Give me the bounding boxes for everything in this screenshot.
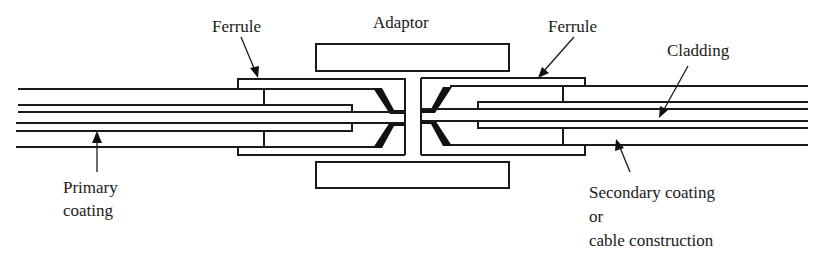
- adaptor: [316, 44, 509, 188]
- right-primary-top: [478, 102, 808, 109]
- right-ferrule: [421, 78, 585, 155]
- right-sleeve-bottom: [421, 120, 452, 146]
- left-sleeve-bottom: [373, 122, 405, 148]
- label-primary-line2: coating: [63, 201, 114, 220]
- label-adaptor: Adaptor: [373, 13, 429, 32]
- adaptor-bottom-block: [316, 162, 509, 188]
- label-secondary-line3: cable construction: [589, 231, 714, 250]
- cladding-leader: [662, 66, 688, 113]
- fibre-connector-diagram: Ferrule Adaptor Ferrule Cladding Primary…: [0, 0, 820, 260]
- label-secondary-line1: Secondary coating: [589, 183, 716, 202]
- left-sleeve-top: [373, 88, 405, 114]
- left-fibre: [16, 89, 405, 147]
- arrowhead-icon: [659, 106, 668, 118]
- ferrule-right-leader: [543, 37, 574, 72]
- left-primary-top: [18, 105, 352, 112]
- label-cladding: Cladding: [667, 41, 730, 60]
- label-secondary-line2: or: [589, 207, 604, 226]
- label-ferrule-left: Ferrule: [212, 17, 261, 36]
- arrowhead-icon: [92, 131, 102, 143]
- label-ferrule-right: Ferrule: [548, 17, 597, 36]
- left-ferrule: [238, 79, 405, 155]
- arrowhead-icon: [538, 67, 549, 78]
- right-primary-bottom: [478, 121, 808, 128]
- right-fibre: [421, 86, 808, 145]
- left-primary-bottom: [16, 123, 352, 131]
- arrowhead-icon: [250, 66, 259, 78]
- label-primary-line1: Primary: [63, 178, 118, 197]
- adaptor-top-block: [316, 44, 509, 71]
